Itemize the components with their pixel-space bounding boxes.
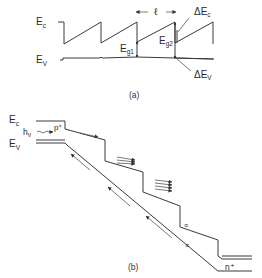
delta-ec-leader — [178, 18, 189, 32]
valence-band-slope — [65, 143, 252, 271]
hole-arrow-2 — [108, 187, 130, 206]
delta-ev-label: ΔEV — [194, 69, 212, 81]
conduction-band-staircase — [36, 121, 252, 259]
panel-b: Ec EV hν p⁺ ≡ ≡ n⁺ — [9, 114, 252, 272]
hole-marker: ≡ — [185, 242, 189, 249]
panel-a: Ec EV ℓ Eg1 Eg2 ΔEc ΔEV (a) — [36, 6, 214, 100]
n-region-label: n⁺ — [225, 262, 235, 272]
band-diagram: Ec EV ℓ Eg1 Eg2 ΔEc ΔEV (a) Ec — [0, 0, 262, 278]
ev-label-b: EV — [9, 138, 21, 151]
hole-arrow-3 — [146, 216, 172, 238]
eg1-label: Eg1 — [120, 43, 134, 56]
ec-label-a: Ec — [36, 16, 47, 29]
electron-marker: ≡ — [184, 222, 188, 229]
electron-arrow-1 — [80, 133, 98, 137]
delta-ec-label: ΔEc — [194, 6, 211, 18]
photon-wave — [37, 131, 49, 133]
electron-arrows-step3 — [155, 180, 172, 191]
electron-arrows-step2 — [117, 157, 135, 164]
conduction-band-sawtooth — [58, 22, 213, 44]
eg2-label: Eg2 — [159, 35, 173, 48]
p-region-label: p⁺ — [54, 123, 62, 132]
delta-ev-leader — [177, 59, 191, 71]
ec-label-b: Ec — [9, 114, 20, 127]
ev-label-a: EV — [36, 54, 48, 67]
caption-a: (a) — [129, 90, 140, 100]
period-label: ℓ — [154, 6, 158, 17]
caption-b: (b) — [128, 262, 139, 272]
photon-label: hν — [23, 127, 31, 138]
